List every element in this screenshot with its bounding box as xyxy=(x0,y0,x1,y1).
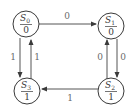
transition-s0-s3: 1 xyxy=(10,38,20,77)
edge-label-s0-s1: 0 xyxy=(64,11,70,21)
state-s0: S0 0 xyxy=(13,11,39,37)
state-output-s2: 1 xyxy=(108,92,114,102)
transition-s2-s3: 1 xyxy=(42,89,98,103)
state-diagram: 0 1 1 0 0 1 S0 0 S1 0 S2 1 xyxy=(0,0,130,110)
state-output-s1: 0 xyxy=(108,27,114,37)
edge-label-s0-s3: 1 xyxy=(10,52,16,62)
edge-label-s2-s3: 1 xyxy=(67,93,73,103)
edge-label-s2-s1: 0 xyxy=(97,52,103,62)
transition-s3-s0: 1 xyxy=(31,40,40,79)
transition-s2-s1: 0 xyxy=(97,40,107,79)
state-output-s0: 0 xyxy=(23,25,29,35)
transition-s1-s2: 0 xyxy=(117,39,126,77)
transition-s0-s1: 0 xyxy=(39,11,96,24)
state-output-s3: 1 xyxy=(24,92,30,102)
state-s1: S1 0 xyxy=(98,13,124,39)
state-s2: S2 1 xyxy=(98,78,124,104)
edge-label-s1-s2: 0 xyxy=(120,52,126,62)
state-s3: S3 1 xyxy=(14,78,40,104)
edge-label-s3-s0: 1 xyxy=(34,52,40,62)
